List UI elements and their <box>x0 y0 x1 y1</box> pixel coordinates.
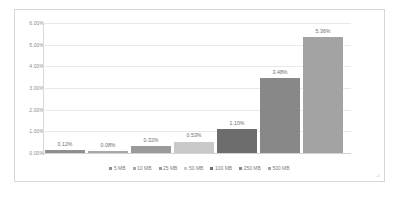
legend-label: 250 MB <box>244 166 261 171</box>
bar-250mb[interactable] <box>260 78 300 153</box>
y-tick-label: 3.00% <box>4 86 44 91</box>
bar-value-label: 0.53% <box>174 133 214 138</box>
plot-area: 0.12% 0.08% 0.32% 0.53% 1.10% 3.48% 5.36… <box>43 23 351 153</box>
legend-item-25mb[interactable]: 25 MB <box>159 166 178 171</box>
resize-handle-icon[interactable]: ⌟ <box>375 169 380 178</box>
bar-10mb[interactable] <box>88 151 128 153</box>
legend-label: 500 MB <box>272 166 289 171</box>
legend-item-50mb[interactable]: 50 MB <box>184 166 203 171</box>
bar-value-label: 5.36% <box>303 29 343 34</box>
bar-100mb[interactable] <box>217 129 257 153</box>
chart-legend: 5 MB 10 MB 25 MB 50 MB 100 MB 250 MB 500… <box>15 166 384 171</box>
gridline <box>43 23 351 24</box>
bar-value-label: 3.48% <box>260 70 300 75</box>
bar-500mb[interactable] <box>303 37 343 153</box>
y-tick-label: 0.00% <box>4 151 44 156</box>
legend-swatch-icon <box>159 167 162 170</box>
legend-label: 10 MB <box>137 166 151 171</box>
legend-swatch-icon <box>268 167 271 170</box>
y-tick-label: 1.00% <box>4 129 44 134</box>
bar-50mb[interactable] <box>174 142 214 154</box>
y-tick-label: 5.00% <box>4 43 44 48</box>
legend-label: 50 MB <box>189 166 203 171</box>
legend-item-5mb[interactable]: 5 MB <box>109 166 125 171</box>
legend-item-250mb[interactable]: 250 MB <box>239 166 261 171</box>
bar-value-label: 1.10% <box>217 121 257 126</box>
y-tick-label: 2.00% <box>4 108 44 113</box>
legend-swatch-icon <box>184 167 187 170</box>
bar-value-label: 0.08% <box>88 143 128 148</box>
legend-swatch-icon <box>109 167 112 170</box>
legend-item-10mb[interactable]: 10 MB <box>133 166 152 171</box>
legend-label: 25 MB <box>163 166 177 171</box>
legend-swatch-icon <box>210 167 213 170</box>
bar-value-label: 0.32% <box>131 138 171 143</box>
legend-swatch-icon <box>133 167 136 170</box>
bar-value-label: 0.12% <box>45 142 85 147</box>
chart-frame[interactable]: 6.00% 5.00% 4.00% 3.00% 2.00% 1.00% 0.00… <box>14 9 385 182</box>
legend-swatch-icon <box>239 167 242 170</box>
legend-label: 5 MB <box>114 166 126 171</box>
bar-25mb[interactable] <box>131 146 171 153</box>
y-tick-label: 4.00% <box>4 64 44 69</box>
axis-baseline <box>43 153 351 154</box>
legend-label: 100 MB <box>215 166 232 171</box>
legend-item-100mb[interactable]: 100 MB <box>210 166 232 171</box>
legend-item-500mb[interactable]: 500 MB <box>268 166 290 171</box>
bar-5mb[interactable] <box>45 150 85 153</box>
y-tick-label: 6.00% <box>4 21 44 26</box>
